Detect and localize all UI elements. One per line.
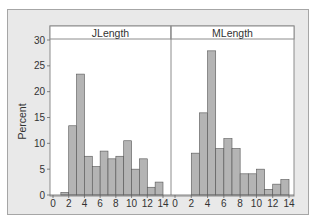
y-tick-label: 15 (34, 112, 46, 123)
x-tick-label: 0 (50, 198, 56, 209)
histogram-bar (108, 159, 116, 195)
histogram-bar (116, 156, 124, 195)
y-tick-label: 10 (34, 138, 46, 149)
histogram-bar (232, 149, 240, 196)
x-tick-label: 12 (267, 198, 279, 209)
x-tick-label: 14 (283, 198, 295, 209)
panel-title: JLength (92, 27, 130, 39)
x-tick-label: 14 (157, 198, 169, 209)
histogram-bar (155, 182, 163, 195)
histogram-bar (147, 187, 155, 195)
histogram-bar (199, 113, 207, 195)
panel-title: MLength (212, 27, 253, 39)
histogram-bar (208, 51, 216, 195)
y-tick-label: 0 (39, 190, 45, 201)
histogram-bar (281, 180, 289, 196)
histogram-bar (92, 167, 100, 195)
x-tick-label: 8 (113, 198, 119, 209)
x-tick-label: 10 (126, 198, 138, 209)
y-tick-label: 25 (34, 60, 46, 71)
y-tick-label: 30 (34, 35, 46, 46)
histogram-bar (100, 151, 108, 195)
x-tick-label: 6 (221, 198, 227, 209)
histogram-bar (224, 139, 232, 195)
histogram-bar (84, 156, 92, 195)
x-tick-label: 2 (189, 198, 195, 209)
y-axis-label: Percent (16, 103, 28, 139)
x-tick-label: 10 (251, 198, 263, 209)
x-tick-label: 12 (142, 198, 154, 209)
histogram-bar (191, 153, 199, 195)
x-tick-label: 0 (172, 198, 178, 209)
x-tick-label: 4 (82, 198, 88, 209)
histogram-bar (273, 184, 281, 195)
x-tick-label: 8 (237, 198, 243, 209)
x-tick-label: 4 (205, 198, 211, 209)
y-tick-label: 20 (34, 86, 46, 97)
histogram-bar (69, 126, 77, 195)
histogram-chart: JLength02468101214MLength024681012140510… (0, 0, 313, 222)
histogram-bar (216, 149, 224, 196)
x-tick-label: 6 (97, 198, 103, 209)
histogram-bar (139, 159, 147, 195)
histogram-bar (132, 169, 140, 195)
histogram-bar (124, 141, 132, 195)
histogram-bar (77, 74, 85, 195)
y-tick-label: 5 (39, 164, 45, 175)
histogram-bar (256, 169, 264, 195)
histogram-bar (240, 174, 248, 195)
histogram-bar (248, 174, 256, 195)
histogram-bar (265, 189, 273, 195)
x-tick-label: 2 (66, 198, 72, 209)
